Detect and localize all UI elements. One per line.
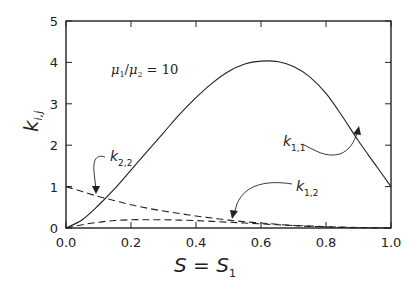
curves <box>66 61 391 228</box>
svg-text:k1,1: k1,1 <box>283 133 305 153</box>
svg-text:k2,2: k2,2 <box>110 148 132 168</box>
k12-label: k1,2 <box>230 178 318 219</box>
k22-arrowhead-icon <box>92 186 100 194</box>
axis-ticks: 0.00.20.40.60.81.0012345 <box>50 14 402 250</box>
x-tick-label: 0.6 <box>251 235 272 250</box>
y-tick-label: 3 <box>50 97 58 112</box>
k12-arrowhead-icon <box>230 210 238 219</box>
k12-arrow <box>234 183 292 214</box>
k22-arrow <box>94 156 105 190</box>
x-tick-label: 0.2 <box>121 235 142 250</box>
y-label-sub: i,j <box>32 110 45 121</box>
k11-arrow <box>302 133 357 155</box>
svg-text:μ1/μ2 = 10: μ1/μ2 = 10 <box>111 62 178 79</box>
curve-k1-2 <box>66 220 391 228</box>
viscosity-ratio-annotation: μ1/μ2 = 10 <box>111 62 178 79</box>
x-tick-label: 0.0 <box>56 235 77 250</box>
curve-k2-2 <box>66 187 391 228</box>
y-tick-label: 1 <box>50 180 58 195</box>
x-tick-label: 0.8 <box>316 235 337 250</box>
y-axis-label: ki,j <box>19 110 45 132</box>
x-tick-label: 1.0 <box>381 235 402 250</box>
y-tick-label: 5 <box>50 14 58 29</box>
x-axis-label: S = S1 <box>174 253 236 280</box>
svg-text:S = S1: S = S1 <box>174 253 236 280</box>
y-tick-label: 4 <box>50 55 58 70</box>
x-tick-label: 0.4 <box>186 235 207 250</box>
svg-text:ki,j: ki,j <box>19 110 45 132</box>
k11-arrowhead-icon <box>353 126 361 135</box>
curve-k1-1 <box>66 61 391 228</box>
y-tick-label: 0 <box>50 221 58 236</box>
svg-text:k1,2: k1,2 <box>296 178 318 198</box>
chart: 0.00.20.40.60.81.0012345 ki,j S = S1 μ1/… <box>0 0 415 291</box>
y-tick-label: 2 <box>50 138 58 153</box>
plot-frame <box>66 21 391 228</box>
k22-label: k2,2 <box>92 148 132 194</box>
k11-label: k1,1 <box>283 126 361 155</box>
